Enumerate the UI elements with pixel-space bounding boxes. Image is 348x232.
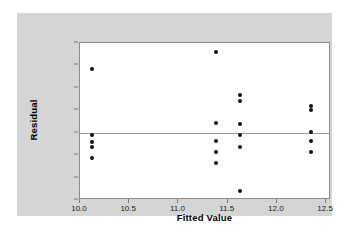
x-tick-mark bbox=[128, 199, 129, 203]
y-tick-mark bbox=[74, 42, 78, 43]
data-point bbox=[238, 145, 242, 149]
data-point bbox=[90, 156, 94, 160]
data-point bbox=[309, 139, 313, 143]
y-tick-mark bbox=[74, 199, 78, 200]
x-tick-mark bbox=[325, 199, 326, 203]
data-point bbox=[214, 121, 218, 125]
y-tick-mark bbox=[74, 176, 78, 177]
data-point bbox=[238, 133, 242, 137]
data-point bbox=[90, 145, 94, 149]
x-tick-mark bbox=[177, 199, 178, 203]
residual-plot-figure: Residual 43210-1-2-3 10.010.511.011.512.… bbox=[0, 0, 348, 232]
data-point bbox=[309, 150, 313, 154]
data-point bbox=[90, 133, 94, 137]
x-tick-mark bbox=[227, 199, 228, 203]
y-tick-mark bbox=[74, 109, 78, 110]
data-point bbox=[214, 150, 218, 154]
data-point bbox=[238, 122, 242, 126]
x-tick-mark bbox=[276, 199, 277, 203]
chart-panel: Residual 43210-1-2-3 10.010.511.011.512.… bbox=[17, 13, 332, 216]
data-point bbox=[214, 139, 218, 143]
data-point bbox=[214, 161, 218, 165]
data-point bbox=[214, 50, 218, 54]
data-point bbox=[90, 140, 94, 144]
y-tick-mark bbox=[74, 64, 78, 65]
data-point bbox=[238, 189, 242, 193]
y-tick-mark bbox=[74, 154, 78, 155]
x-tick-mark bbox=[79, 199, 80, 203]
y-tick-mark bbox=[74, 86, 78, 87]
plot-area bbox=[79, 42, 330, 199]
y-tick-mark bbox=[74, 131, 78, 132]
data-point bbox=[238, 99, 242, 103]
data-point bbox=[309, 130, 313, 134]
zero-reference-line bbox=[80, 133, 329, 134]
data-point bbox=[90, 67, 94, 71]
x-axis-title: Fitted Value bbox=[79, 212, 330, 223]
data-point bbox=[309, 108, 313, 112]
data-point bbox=[238, 93, 242, 97]
